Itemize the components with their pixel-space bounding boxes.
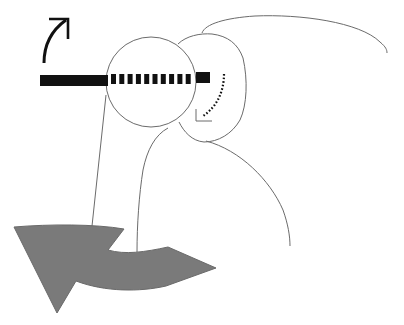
rod-end-block xyxy=(196,72,210,83)
body-curve-middle xyxy=(137,128,168,252)
body-curve-right xyxy=(206,141,290,246)
outer-arc xyxy=(202,16,387,53)
rod-solid xyxy=(40,75,108,86)
diagram-canvas xyxy=(0,0,404,325)
body-line-left xyxy=(92,95,106,226)
big-curved-arrow xyxy=(14,225,216,313)
diagram-svg xyxy=(0,0,404,325)
rotation-arrow-icon xyxy=(44,19,68,63)
